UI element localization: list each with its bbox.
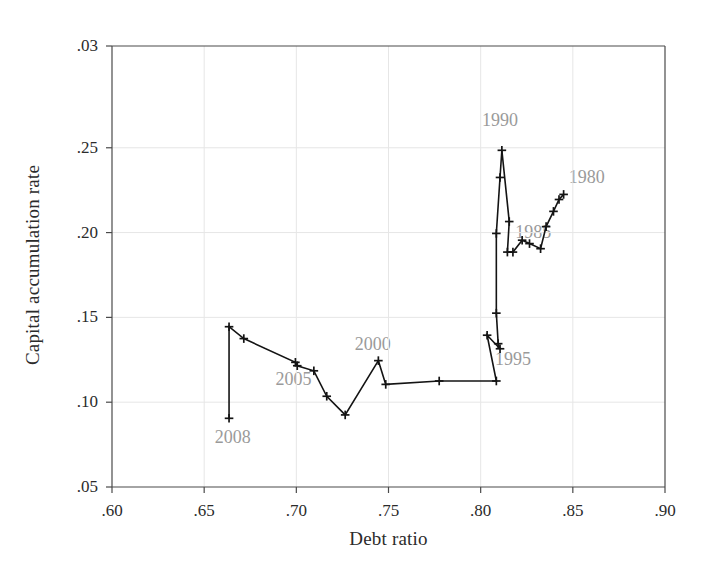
data-point-marker (310, 367, 319, 376)
plot-canvas (0, 0, 726, 588)
series-line (229, 150, 564, 418)
gridlines (112, 46, 665, 487)
data-point-marker (492, 377, 501, 386)
series-markers (225, 146, 568, 423)
data-point-marker (505, 217, 514, 226)
data-point-marker (496, 173, 505, 182)
series-polyline (229, 150, 564, 418)
data-point-marker (492, 309, 501, 318)
data-point-marker (536, 244, 545, 253)
data-point-marker (549, 207, 558, 216)
data-point-marker (525, 239, 534, 248)
data-point-marker (494, 339, 503, 348)
data-point-marker (374, 356, 383, 365)
data-point-marker (542, 222, 551, 231)
chart-figure: Capital accumulation rate Debt ratio .05… (0, 0, 726, 588)
data-point-marker (435, 377, 444, 386)
data-point-marker (503, 248, 512, 257)
data-point-marker (492, 229, 501, 238)
axis-ticks (106, 46, 665, 493)
data-point-marker (225, 414, 234, 423)
